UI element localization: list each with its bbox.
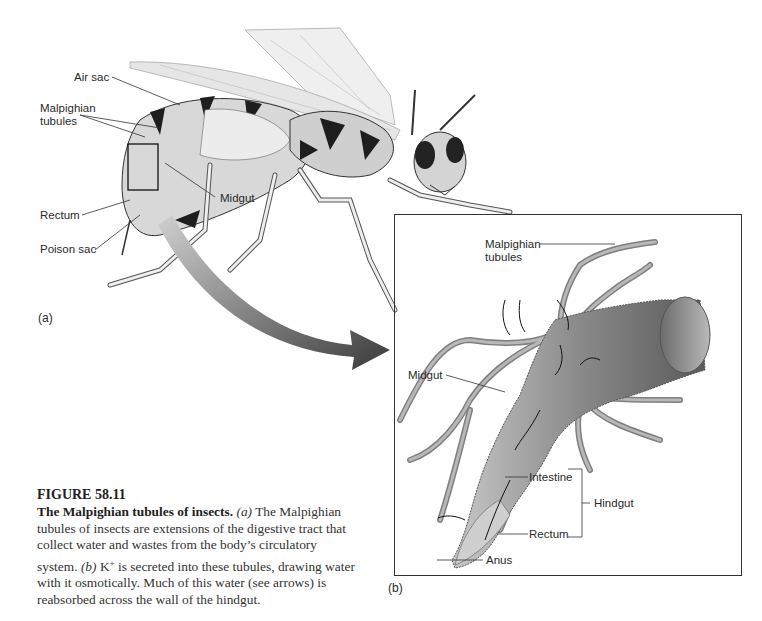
label-malpighian-tubules-b-line2: tubules xyxy=(485,250,522,264)
panel-a-letter: (a) xyxy=(38,311,53,325)
figure-number: FIGURE 58.11 xyxy=(37,487,357,504)
panel-b-letter: (b) xyxy=(388,581,403,595)
label-hindgut: Hindgut xyxy=(594,496,634,510)
label-rectum-a: Rectum xyxy=(40,208,80,222)
label-poison-sac: Poison sac xyxy=(40,242,96,256)
label-air-sac: Air sac xyxy=(74,70,109,84)
label-intestine: Intestine xyxy=(529,470,572,484)
label-malpighian-tubules-a-line2: tubules xyxy=(40,114,77,128)
label-rectum-b: Rectum xyxy=(529,527,569,541)
label-anus: Anus xyxy=(486,553,512,567)
panel-b-frame xyxy=(394,214,742,576)
label-midgut-a: Midgut xyxy=(220,191,255,205)
figure-title: The Malpighian tubules of insects. xyxy=(37,504,233,519)
label-malpighian-tubules-b-line1: Malpighian xyxy=(485,237,541,251)
caption-body: (a) The Malpighian tubules of insects ar… xyxy=(37,504,355,607)
label-midgut-b: Midgut xyxy=(408,368,443,382)
label-malpighian-tubules-a-line1: Malpighian xyxy=(40,101,96,115)
figure-caption: FIGURE 58.11 The Malpighian tubules of i… xyxy=(37,487,357,609)
